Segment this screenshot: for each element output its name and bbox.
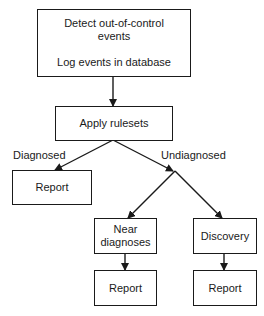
report-discovery-label: Report xyxy=(208,282,241,295)
report-diagnosed-label: Report xyxy=(35,181,68,194)
arrow-junction-to-discovery xyxy=(175,171,222,218)
near-diagnoses-box: Near diagnoses xyxy=(94,218,157,254)
apply-rulesets-box: Apply rulesets xyxy=(55,106,173,141)
near-line1: Near xyxy=(114,223,138,236)
detect-line1: Detect out-of-control xyxy=(64,17,164,30)
report-near-label: Report xyxy=(109,282,142,295)
detect-line3: Log events in database xyxy=(57,56,171,69)
arrow-junction-to-near xyxy=(128,171,175,218)
detect-events-box: Detect out-of-control events Log events … xyxy=(37,9,191,77)
diagnosed-label: Diagnosed xyxy=(13,149,66,162)
report-diagnosed-box: Report xyxy=(12,170,92,205)
report-discovery-box: Report xyxy=(193,270,257,306)
near-line2: diagnoses xyxy=(100,236,150,249)
undiagnosed-label: Undiagnosed xyxy=(161,149,226,162)
discovery-box: Discovery xyxy=(193,218,257,254)
discovery-label: Discovery xyxy=(201,230,249,243)
detect-line2: events xyxy=(98,30,130,43)
report-near-box: Report xyxy=(94,270,157,306)
apply-label: Apply rulesets xyxy=(79,117,148,130)
